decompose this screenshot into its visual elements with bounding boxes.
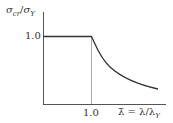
plot-area <box>0 0 173 123</box>
curve <box>44 37 159 90</box>
x-tick-label: 1.0 <box>83 107 99 118</box>
x-axis-label: λ̄ = λ/λY <box>118 106 160 120</box>
chart: σcr/σY 1.0 1.0 λ̄ = λ/λY <box>0 0 173 123</box>
y-axis-label: σcr/σY <box>6 4 35 18</box>
y-tick-label: 1.0 <box>25 30 41 41</box>
